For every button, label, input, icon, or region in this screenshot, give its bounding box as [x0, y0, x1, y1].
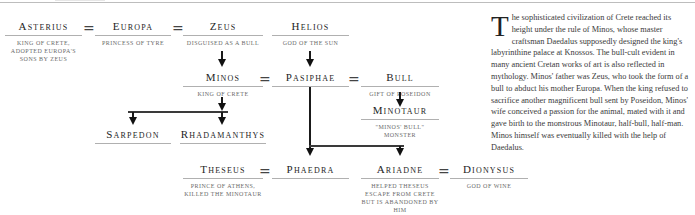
node-desc: Prince of Athens, killed the Minotaur [183, 182, 263, 198]
node-ariadne: Ariadne Helped Theseus escape from Crete… [361, 163, 439, 214]
node-helios: Helios God of the sun [272, 20, 349, 47]
node-theseus: Theseus Prince of Athens, killed the Min… [183, 163, 263, 198]
marriage-symbol: = [438, 164, 450, 178]
node-name: Theseus [183, 163, 263, 179]
node-name: Dionysus [450, 163, 528, 179]
node-name: Ariadne [361, 163, 439, 179]
arrow-down-icon [396, 148, 404, 156]
node-name: Helios [272, 20, 349, 36]
node-minotaur: Minotaur "Minos' bull" monster [361, 104, 439, 139]
node-name: Sarpedon [95, 128, 171, 144]
marriage-symbol: = [259, 72, 271, 86]
node-asterius: Asterius King of Crete, adopted Europa's… [5, 20, 82, 63]
arrow-down-icon [218, 59, 226, 67]
node-dionysus: Dionysus God of wine [450, 163, 528, 190]
node-name: Rhadamanthys [180, 128, 266, 144]
node-rhadamanthys: Rhadamanthys [180, 128, 266, 144]
node-europa: Europa Princess of Tyre [95, 20, 171, 47]
node-name: Minos [183, 71, 263, 87]
arrow-down-icon [306, 148, 314, 156]
article-body: he sophisticated civilization of Crete r… [491, 13, 688, 152]
node-desc: God of wine [450, 182, 528, 190]
node-desc: Disguised as a bull [183, 39, 263, 47]
article-paragraph: T he sophisticated civilization of Crete… [491, 12, 691, 154]
node-desc: God of the sun [272, 39, 349, 47]
arrow-down-icon [218, 117, 226, 125]
arrow-down-icon [218, 103, 226, 111]
node-name: Zeus [183, 20, 263, 36]
arrow-down-icon [129, 117, 137, 125]
node-minos: Minos King of Crete [183, 71, 263, 98]
node-sarpedon: Sarpedon [95, 128, 171, 144]
descent-line [309, 87, 311, 149]
node-name: Bull [361, 71, 439, 87]
node-desc: King of Crete [183, 90, 263, 98]
header-rule [0, 2, 695, 3]
sibling-bar [309, 145, 404, 147]
marriage-symbol: = [259, 164, 271, 178]
marriage-symbol: = [348, 72, 360, 86]
marriage-symbol: = [83, 21, 95, 35]
node-name: Europa [95, 20, 171, 36]
node-desc: King of Crete, adopted Europa's sons by … [5, 39, 82, 63]
node-desc: Helped Theseus escape from Crete but is … [361, 182, 439, 214]
node-zeus: Zeus Disguised as a bull [183, 20, 263, 47]
header-title-fragment [55, 0, 105, 1]
node-pasiphae: Pasiphae [272, 71, 349, 87]
node-name: Minotaur [361, 104, 439, 120]
node-desc: Princess of Tyre [95, 39, 171, 47]
sibling-bar [128, 111, 228, 113]
node-name: Phaedra [272, 163, 349, 179]
node-name: Pasiphae [272, 71, 349, 87]
node-desc: "Minos' bull" monster [361, 123, 439, 139]
drop-cap: T [491, 14, 509, 38]
node-name: Asterius [5, 20, 82, 36]
marriage-symbol: = [172, 21, 184, 35]
arrow-down-icon [306, 59, 314, 67]
node-phaedra: Phaedra [272, 163, 349, 179]
